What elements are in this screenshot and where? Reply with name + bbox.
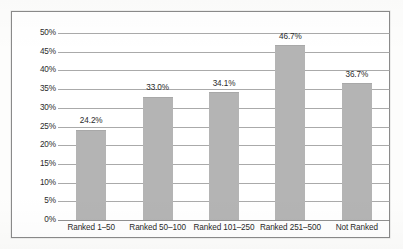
x-axis-tick-label: Not Ranked xyxy=(324,223,390,232)
gridline-0 xyxy=(58,220,390,221)
bar-group[interactable]: 33.0% xyxy=(143,33,173,220)
y-axis-tick-label: 30% xyxy=(22,104,56,112)
y-axis-tick-label: 5% xyxy=(22,197,56,205)
bar-value-label: 33.0% xyxy=(146,84,169,92)
y-axis: 50%45%40%35%30%25%20%15%10%5%0% xyxy=(18,33,56,220)
y-axis-tick-label: 40% xyxy=(22,66,56,74)
y-axis-tick-label: 15% xyxy=(22,160,56,168)
y-axis-tick-label: 25% xyxy=(22,123,56,131)
bar[interactable] xyxy=(76,130,106,221)
bar[interactable] xyxy=(342,83,372,220)
x-axis-tick-label: Ranked 101–250 xyxy=(191,223,257,232)
plot-area: 24.2%33.0%34.1%46.7%36.7% xyxy=(58,33,390,220)
bar-value-label: 34.1% xyxy=(213,80,236,88)
bar[interactable] xyxy=(143,97,173,220)
y-axis-tick-label: 0% xyxy=(22,216,56,224)
bar-group[interactable]: 24.2% xyxy=(76,33,106,220)
x-axis-tick-label: Ranked 251–500 xyxy=(257,223,323,232)
y-axis-tick-label: 50% xyxy=(22,29,56,37)
chart-frame-border: 50%45%40%35%30%25%20%15%10%5%0% 24.2%33.… xyxy=(11,11,390,238)
bar-group[interactable]: 36.7% xyxy=(342,33,372,220)
bar-group[interactable]: 46.7% xyxy=(275,33,305,220)
bar[interactable] xyxy=(275,45,305,220)
bar-value-label: 46.7% xyxy=(279,33,302,41)
y-axis-tick-label: 35% xyxy=(22,85,56,93)
y-axis-tick-label: 10% xyxy=(22,179,56,187)
y-axis-tick-label: 45% xyxy=(22,48,56,56)
bar-value-label: 36.7% xyxy=(345,71,368,79)
x-axis-tick-label: Ranked 50–100 xyxy=(124,223,190,232)
bar-chart-figure: 50%45%40%35%30%25%20%15%10%5%0% 24.2%33.… xyxy=(0,0,403,249)
bar-group[interactable]: 34.1% xyxy=(209,33,239,220)
bar[interactable] xyxy=(209,92,239,220)
y-axis-tick-label: 20% xyxy=(22,141,56,149)
x-axis-tick-label: Ranked 1–50 xyxy=(58,223,124,232)
bar-value-label: 24.2% xyxy=(80,117,103,125)
x-axis: Ranked 1–50Ranked 50–100Ranked 101–250Ra… xyxy=(58,223,390,239)
